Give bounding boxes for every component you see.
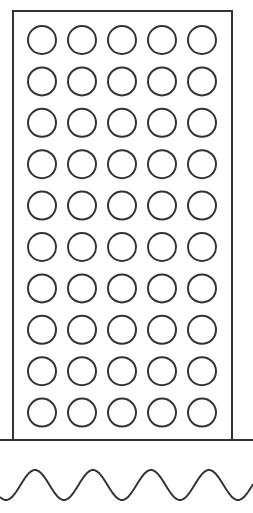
grid-circle xyxy=(188,109,216,137)
grid-circle xyxy=(148,399,176,427)
grid-circle xyxy=(108,26,136,54)
grid-circle xyxy=(28,150,56,178)
grid-circle xyxy=(188,274,216,302)
grid-circle xyxy=(148,357,176,385)
grid-circle xyxy=(188,357,216,385)
grid-circle xyxy=(28,233,56,261)
grid-circle xyxy=(108,109,136,137)
grid-circle xyxy=(188,192,216,220)
grid-circle xyxy=(68,67,96,95)
grid-circle xyxy=(28,192,56,220)
grid-circle xyxy=(188,67,216,95)
grid-circle xyxy=(188,399,216,427)
grid-circle xyxy=(68,150,96,178)
grid-circle xyxy=(108,357,136,385)
grid-circle xyxy=(28,357,56,385)
grid-circle xyxy=(68,316,96,344)
grid-circle xyxy=(68,274,96,302)
diagram-canvas xyxy=(0,0,253,513)
grid-circle xyxy=(148,274,176,302)
grid-circle xyxy=(148,233,176,261)
grid-circle xyxy=(28,316,56,344)
grid-circle xyxy=(108,233,136,261)
grid-circle xyxy=(148,109,176,137)
grid-circle xyxy=(68,233,96,261)
grid-circle xyxy=(148,26,176,54)
grid-circle xyxy=(148,67,176,95)
grid-circle xyxy=(108,192,136,220)
outer-rectangle xyxy=(13,11,232,440)
wavy-line xyxy=(0,470,253,500)
grid-circle xyxy=(108,274,136,302)
grid-circle xyxy=(108,150,136,178)
grid-circle xyxy=(148,150,176,178)
grid-circle xyxy=(188,150,216,178)
grid-circle xyxy=(28,109,56,137)
grid-circle xyxy=(68,357,96,385)
grid-circle xyxy=(28,274,56,302)
grid-circle xyxy=(68,192,96,220)
grid-circle xyxy=(188,233,216,261)
grid-circle xyxy=(28,67,56,95)
grid-circle xyxy=(188,316,216,344)
grid-circle xyxy=(108,316,136,344)
grid-circle xyxy=(108,67,136,95)
grid-circle xyxy=(148,192,176,220)
grid-circle xyxy=(188,26,216,54)
grid-circle xyxy=(28,399,56,427)
grid-circle xyxy=(68,26,96,54)
grid-circle xyxy=(108,399,136,427)
grid-circle xyxy=(28,26,56,54)
circle-grid xyxy=(28,26,216,427)
grid-circle xyxy=(68,399,96,427)
grid-circle xyxy=(68,109,96,137)
grid-circle xyxy=(148,316,176,344)
